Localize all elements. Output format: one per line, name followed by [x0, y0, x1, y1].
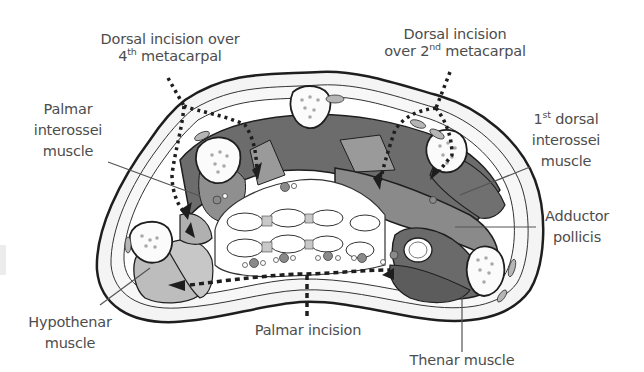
label-palmar-interossei: Palmar interossei muscle	[22, 99, 114, 162]
label-first-dorsal-interossei: 1st dorsal interossei muscle	[520, 109, 612, 172]
label-line: muscle	[22, 333, 118, 354]
label-line: over 2nd metacarpal	[370, 43, 540, 60]
metacarpal-2	[426, 130, 466, 173]
label-hypothenar-muscle: Hypothenar muscle	[22, 312, 118, 354]
metacarpal-1	[467, 246, 504, 296]
metacarpal-4	[196, 137, 240, 183]
label-line: interossei	[22, 120, 114, 141]
label-line: Adductor	[537, 206, 617, 227]
label-line: pollicis	[537, 227, 617, 248]
label-line: Thenar muscle	[405, 352, 519, 369]
label-line: Dorsal incision	[370, 26, 540, 43]
label-dorsal-incision-2nd: Dorsal incision over 2nd metacarpal	[370, 26, 540, 60]
label-line: Dorsal incision over	[85, 31, 255, 48]
label-line: Palmar	[22, 99, 114, 120]
label-line: muscle	[22, 141, 114, 162]
fpl-tendon-inner	[409, 242, 427, 258]
label-line: Hypothenar	[22, 312, 118, 333]
label-line: 1st dorsal	[520, 109, 612, 130]
label-thenar-muscle: Thenar muscle	[405, 352, 519, 369]
label-adductor-pollicis: Adductor pollicis	[537, 206, 617, 248]
label-line: 4th metacarpal	[85, 48, 255, 65]
label-palmar-incision: Palmar incision	[248, 322, 368, 339]
label-dorsal-incision-4th: Dorsal incision over 4th metacarpal	[85, 31, 255, 65]
label-line: Palmar incision	[248, 322, 368, 339]
label-line: muscle	[520, 151, 612, 172]
label-line: interossei	[520, 130, 612, 151]
edge-artifact	[0, 245, 6, 275]
